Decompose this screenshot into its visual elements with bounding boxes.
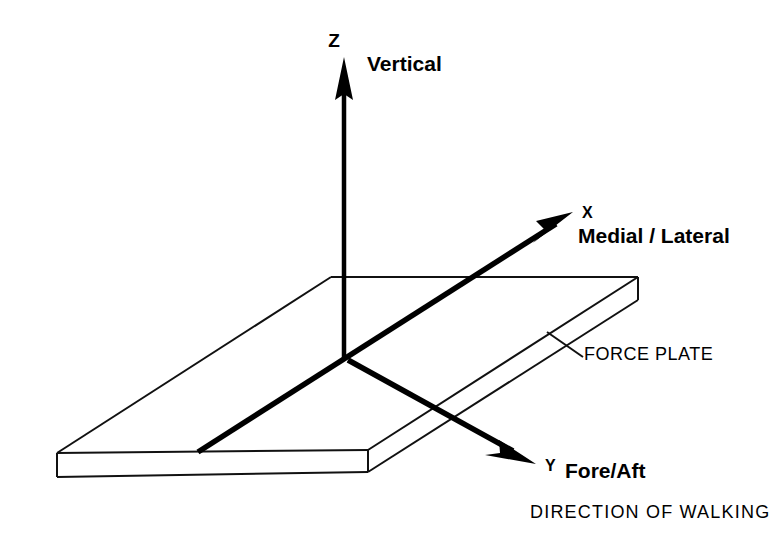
x-axis-symbol-label: X [582,204,593,221]
y-axis-description-label: Fore/Aft [565,459,646,482]
x-axis-description-label: Medial / Lateral [578,224,730,247]
direction-of-walking-caption: DIRECTION OF WALKING [530,502,770,522]
force-plate-label: FORCE PLATE [584,344,713,364]
force-plate-shape [57,277,638,477]
y-axis-arrowhead [485,440,536,464]
z-axis-description-label: Vertical [367,52,442,75]
plate-top-face [57,277,638,453]
z-axis-symbol-label: Z [328,30,340,51]
z-axis-arrowhead [335,57,353,100]
x-axis-arrowhead [533,212,573,243]
force-plate-diagram: Z Vertical X Medial / Lateral Y Fore/Aft… [0,0,773,541]
diagram-canvas: Z Vertical X Medial / Lateral Y Fore/Aft… [0,0,773,541]
y-axis-symbol-label: Y [545,457,556,474]
